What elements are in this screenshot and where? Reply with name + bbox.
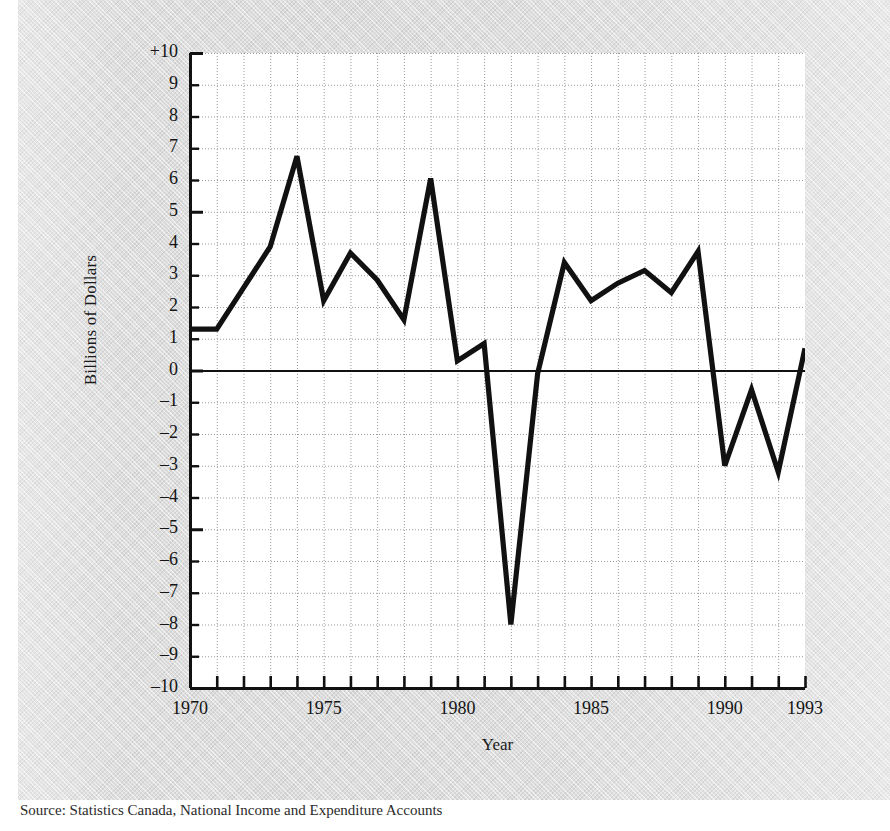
x-tick-label: 1985 — [551, 698, 631, 719]
y-tick-label: 8 — [118, 105, 178, 126]
x-axis-title: Year — [190, 735, 805, 755]
y-tick-label: 3 — [118, 263, 178, 284]
y-tick-label: +10 — [118, 41, 178, 62]
y-tick-label: 5 — [118, 200, 178, 221]
line-chart-figure: Billions of Dollars Year +109876543210–1… — [0, 0, 890, 800]
y-tick-label: 6 — [118, 168, 178, 189]
caption-band: Source: Statistics Canada, National Inco… — [0, 800, 890, 831]
y-tick-label: –1 — [118, 390, 178, 411]
x-tick-label: 1990 — [685, 698, 765, 719]
y-tick-label: –10 — [118, 676, 178, 697]
y-tick-label: 1 — [118, 327, 178, 348]
y-tick-label: 2 — [118, 295, 178, 316]
data-line-group — [190, 156, 805, 624]
y-tick-label: 0 — [118, 359, 178, 380]
y-tick-label: –6 — [118, 549, 178, 570]
x-tick-label: 1970 — [150, 698, 230, 719]
y-tick-label: –7 — [118, 581, 178, 602]
x-tick-label: 1975 — [284, 698, 364, 719]
y-tick-label: 7 — [118, 136, 178, 157]
figure-page: Billions of Dollars Year +109876543210–1… — [0, 0, 890, 831]
y-axis-title: Billions of Dollars — [81, 210, 101, 430]
plot-area — [190, 53, 805, 688]
y-tick-label: –5 — [118, 517, 178, 538]
y-tick-label: –3 — [118, 454, 178, 475]
y-tick-label: –2 — [118, 422, 178, 443]
chart-canvas — [190, 53, 805, 688]
y-tick-label: 9 — [118, 73, 178, 94]
x-tick-label: 1993 — [765, 698, 845, 719]
x-tick-label: 1980 — [417, 698, 497, 719]
y-tick-label: –4 — [118, 486, 178, 507]
data-series-line — [190, 156, 805, 624]
source-caption: Source: Statistics Canada, National Inco… — [20, 802, 442, 819]
y-tick-label: –9 — [118, 644, 178, 665]
y-tick-label: –8 — [118, 613, 178, 634]
y-tick-label: 4 — [118, 232, 178, 253]
